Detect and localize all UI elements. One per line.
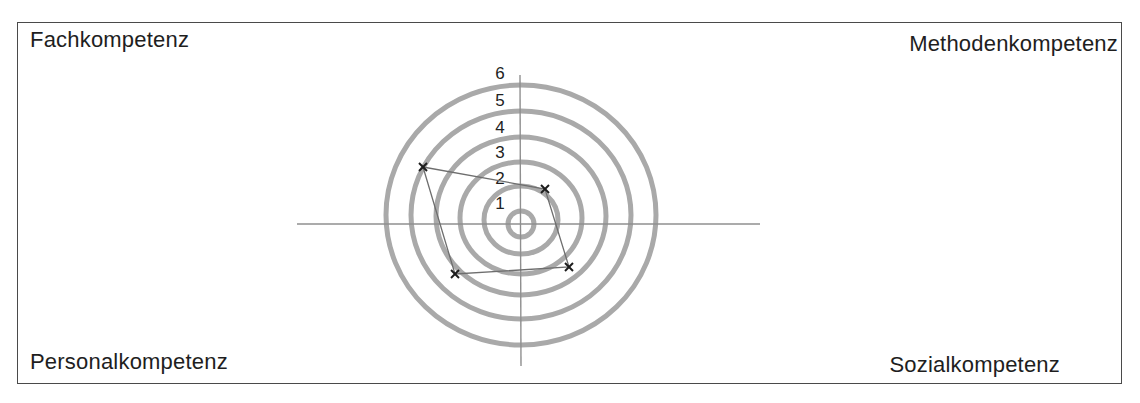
vertical-axis bbox=[520, 75, 521, 366]
scale-label-3: 3 bbox=[495, 143, 504, 162]
scale-label-2: 2 bbox=[495, 169, 504, 188]
scale-label-6: 6 bbox=[495, 64, 504, 83]
scale-label-5: 5 bbox=[495, 91, 504, 110]
scale-label-4: 4 bbox=[495, 118, 504, 137]
competence-radar: 1 2 3 4 5 6 bbox=[0, 0, 1140, 403]
scale-label-1: 1 bbox=[495, 194, 504, 213]
